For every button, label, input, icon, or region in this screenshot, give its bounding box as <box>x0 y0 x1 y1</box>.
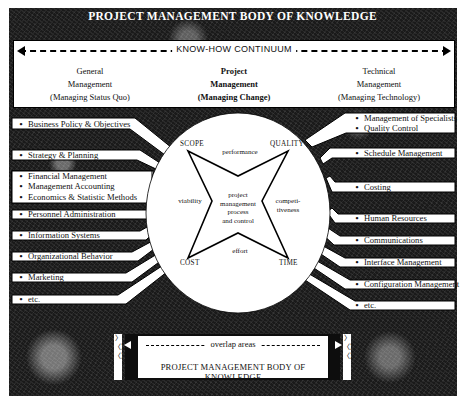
column-line: Project <box>164 65 304 78</box>
bullet-icon: • <box>350 279 364 290</box>
edge-competitiveness: competi- tiveness <box>268 197 308 215</box>
edge-text: tiveness <box>268 206 308 215</box>
right-item: •Communications <box>350 235 423 246</box>
column-line: Technical <box>309 65 449 78</box>
item-label: Configuration Management <box>364 279 459 289</box>
right-item: •Human Resources <box>350 213 427 224</box>
right-item: •Costing <box>350 182 391 193</box>
left-item: •Marketing <box>14 272 64 283</box>
center-line: management <box>208 200 268 209</box>
corner-time: TIME <box>279 259 298 267</box>
center-line: process <box>208 208 268 217</box>
bullet-icon: • <box>14 150 28 161</box>
column-general-management: General Management (Managing Status Quo) <box>20 65 160 104</box>
column-project-management: Project Management (Managing Change) <box>164 65 304 104</box>
bullet-icon: • <box>14 192 28 203</box>
item-label: Management Accounting <box>28 181 115 191</box>
bullet-icon: • <box>14 119 28 130</box>
bullet-icon: • <box>350 257 364 268</box>
column-line: (Managing Technology) <box>309 91 449 104</box>
item-label: Schedule Management <box>364 148 443 158</box>
left-item: •etc. <box>14 294 40 305</box>
right-item: •etc. <box>350 300 376 311</box>
bullet-icon: • <box>14 230 28 241</box>
arrow-left-icon <box>124 341 131 349</box>
bullet-icon: • <box>14 181 28 192</box>
page-title: PROJECT MANAGEMENT BODY OF KNOWLEDGE <box>0 10 465 22</box>
bullet-icon: • <box>350 300 364 311</box>
center-line: and control <box>208 217 268 226</box>
edge-performance: performance <box>215 148 265 157</box>
overlap-squiggle-right: 〉〈〉〈〉 <box>343 334 351 380</box>
item-label: Organizational Behavior <box>28 251 113 261</box>
bullet-icon: • <box>350 123 364 134</box>
column-line: Management <box>20 78 160 91</box>
bullet-icon: • <box>14 294 28 305</box>
right-item: •Schedule Management <box>350 148 443 159</box>
edge-effort: effort <box>220 247 260 256</box>
left-item: •Management Accounting <box>14 181 115 192</box>
bullet-icon: • <box>14 209 28 220</box>
column-line: Management <box>164 78 304 91</box>
column-line: (Managing Change) <box>164 91 304 104</box>
bottom-title: PROJECT MANAGEMENT BODY OF KNOWLEDGE <box>138 362 328 382</box>
column-line: (Managing Status Quo) <box>20 91 160 104</box>
bullet-icon: • <box>350 235 364 246</box>
edge-viability: viability <box>170 197 210 206</box>
item-label: Business Policy & Objectives <box>28 119 130 129</box>
bullet-icon: • <box>350 182 364 193</box>
item-label: Management of Specialists <box>364 113 457 123</box>
item-label: Economics & Statistic Methods <box>28 192 137 202</box>
center-line: project <box>208 191 268 200</box>
item-label: Costing <box>364 182 391 192</box>
corner-cost: COST <box>180 259 200 267</box>
column-technical-management: Technical Management (Managing Technolog… <box>309 65 449 104</box>
arrow-right-icon <box>443 46 451 56</box>
overlap-label: overlap areas <box>138 339 328 349</box>
left-item: •Economics & Statistic Methods <box>14 192 137 203</box>
overlap-text: overlap areas <box>206 339 259 349</box>
right-item: •Interface Management <box>350 257 442 268</box>
corner-quality: QUALITY <box>270 140 304 148</box>
item-label: Communications <box>364 235 423 245</box>
item-label: Strategy & Planning <box>28 150 98 160</box>
corner-scope: SCOPE <box>180 140 204 148</box>
right-item: •Configuration Management <box>350 279 459 290</box>
item-label: etc. <box>364 300 376 310</box>
item-label: etc. <box>28 294 40 304</box>
item-label: Marketing <box>28 272 64 282</box>
item-label: Financial Management <box>28 171 107 181</box>
right-item: •Quality Control <box>350 123 418 134</box>
left-item: •Strategy & Planning <box>14 150 98 161</box>
arrow-left-icon <box>17 46 25 56</box>
bullet-icon: • <box>350 148 364 159</box>
bullet-icon: • <box>350 213 364 224</box>
item-label: Human Resources <box>364 213 427 223</box>
item-label: Personnel Administration <box>28 209 116 219</box>
center-label: project management process and control <box>208 191 268 225</box>
left-item: •Personnel Administration <box>14 209 116 220</box>
left-item: •Organizational Behavior <box>14 251 113 262</box>
column-line: General <box>20 65 160 78</box>
know-how-continuum: KNOW-HOW CONTINUUM General Management (M… <box>13 40 455 108</box>
continuum-label: KNOW-HOW CONTINUUM <box>172 44 296 54</box>
left-item: •Business Policy & Objectives <box>14 119 130 130</box>
item-label: Interface Management <box>364 257 442 267</box>
bullet-icon: • <box>14 251 28 262</box>
overlap-squiggle-left: 〉〈〉〈〉 <box>114 334 122 380</box>
arrow-right-icon <box>335 341 342 349</box>
item-label: Quality Control <box>364 123 418 133</box>
item-label: Information Systems <box>28 230 100 240</box>
edge-text: competi- <box>268 197 308 206</box>
left-item: •Information Systems <box>14 230 100 241</box>
column-line: Management <box>309 78 449 91</box>
overlap-box: overlap areas PROJECT MANAGEMENT BODY OF… <box>138 336 328 378</box>
bullet-icon: • <box>14 272 28 283</box>
